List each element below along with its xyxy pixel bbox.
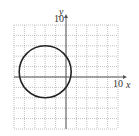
coordinate-plane (0, 0, 139, 136)
x-axis-label: x (126, 80, 130, 90)
y-axis-arrow-icon (64, 14, 68, 18)
x-tick-label-10: 10 (113, 79, 123, 89)
y-tick-label-10: 10 (54, 14, 64, 24)
